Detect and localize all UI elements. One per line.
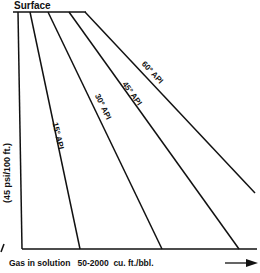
curve-60-api: [85, 12, 255, 193]
curve-45-api: [69, 12, 239, 249]
gradient-diagram: [0, 0, 260, 273]
surface-label: Surface: [14, 0, 51, 11]
y-axis-label: (45 psi/100 ft.): [2, 128, 12, 218]
right-arrow-icon: [225, 259, 258, 267]
tick-mark: [1, 244, 4, 252]
water-gradient-line: [18, 12, 22, 249]
curve-30-api: [48, 12, 162, 249]
x-axis-label: Gas in solution 50-2000 cu. ft./bbl.: [9, 258, 154, 268]
